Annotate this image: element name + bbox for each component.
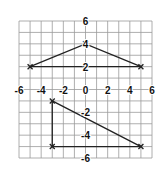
tick-labels: -6-4-20246642-2-4-6 (15, 16, 156, 164)
x-tick-label: 2 (105, 85, 111, 96)
y-tick-label: -4 (81, 130, 90, 141)
x-tick-label: -2 (59, 85, 68, 96)
y-tick-label: -2 (81, 107, 90, 118)
y-tick-label: -6 (81, 153, 90, 164)
y-tick-label: 4 (83, 39, 89, 50)
coordinate-grid: -6-4-20246642-2-4-6 (0, 0, 159, 178)
x-tick-label: -4 (37, 85, 46, 96)
y-tick-label: 2 (83, 62, 89, 73)
x-tick-label: 4 (127, 85, 133, 96)
x-tick-label: 6 (149, 85, 155, 96)
x-tick-label: 0 (83, 85, 89, 96)
y-tick-label: 6 (83, 16, 89, 27)
x-tick-label: -6 (15, 85, 24, 96)
